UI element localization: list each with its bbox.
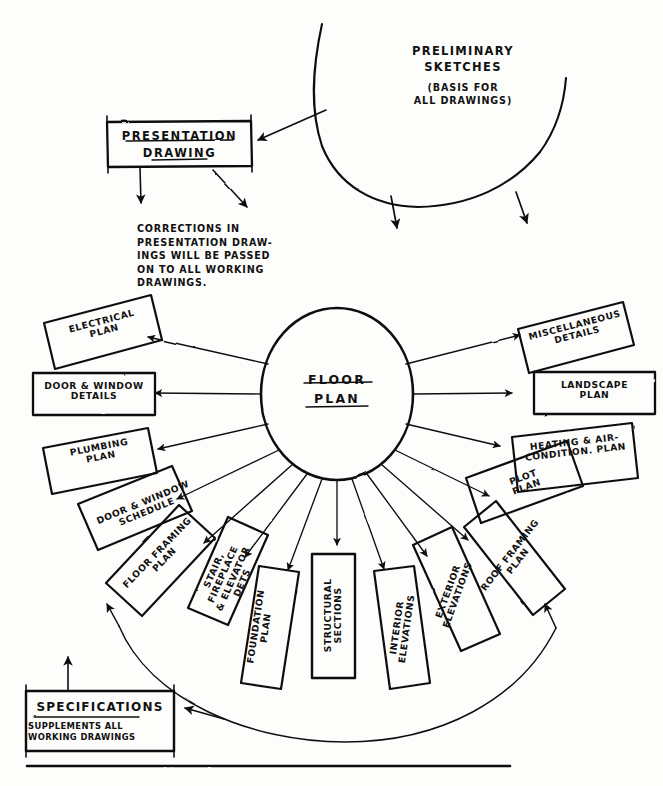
floor-plan-underlines [304,382,372,407]
preliminary-sketches-arc [314,24,566,207]
box-electrical-plan [44,295,162,369]
box-foundation-plan [241,566,299,689]
box-plumbing-plan [43,428,157,494]
box-interior-elevations [374,566,430,689]
presentation-box-ticks [107,115,252,173]
box-stair-fireplace-elevator-dets [188,517,268,625]
box-heating-air-condition-plan [512,423,638,492]
specifications-arc-arrow-right [545,604,556,628]
specifications-arc-arrow-left [107,604,119,626]
specifications-box [26,691,174,751]
diagram-canvas [0,0,663,786]
arrow-presentation-down [140,168,141,203]
radial-spokes [148,335,520,570]
box-structural-sections [312,554,355,678]
specifications-sweep-arc [119,626,556,742]
box-floor-framing-plan [106,505,215,616]
box-miscellaneous-details [518,302,634,373]
floor-plan-circle [261,308,413,480]
sketch-arc-arrow-right [516,192,527,223]
sketch-arc-arrow-left [391,196,397,228]
arrow-presentation-diagonal [213,170,247,207]
corrections-note: CORRECTIONS IN PRESENTATION DRAW- INGS W… [137,222,367,290]
box-door-window-details [33,373,155,415]
box-landscape-plan [534,372,655,414]
presentation-underlines [126,140,233,160]
box-exterior-elevations [413,527,500,651]
specifications-box-ticks [26,685,174,757]
diagram-sheet: PRELIMINARY SKETCHES (BASIS FOR ALL DRAW… [0,0,663,786]
